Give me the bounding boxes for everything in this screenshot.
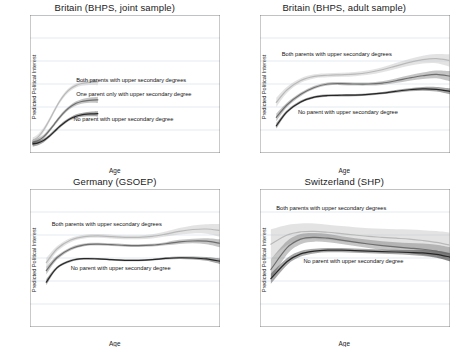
x-axis-label: Age xyxy=(0,167,230,174)
plot-area: 30405060708090101420406080Both parents w… xyxy=(260,189,450,327)
series-annotation: Both parents with upper secondary degree… xyxy=(76,77,186,83)
x-axis-label: Age xyxy=(230,340,459,347)
figure-grid: Britain (BHPS, joint sample) Predicted P… xyxy=(0,0,459,347)
series-annotation: Both parents with upper secondary degree… xyxy=(52,220,162,226)
panel-germany: Germany (GSOEP) Predicted Political Inte… xyxy=(0,174,230,347)
panel-title: Switzerland (SHP) xyxy=(230,176,459,187)
plot-area: 20304050607080101620406080Both parents w… xyxy=(30,189,220,327)
panel-britain-adult: Britain (BHPS, adult sample) Predicted P… xyxy=(230,0,459,174)
plot-area: 20304050607080101620406080Both parents w… xyxy=(260,15,450,153)
panel-switzerland: Switzerland (SHP) Predicted Political In… xyxy=(230,174,459,347)
panel-title: Britain (BHPS, joint sample) xyxy=(0,2,230,13)
panel-title: Britain (BHPS, adult sample) xyxy=(230,2,459,13)
series-annotation: Both parents with upper secondary degree… xyxy=(276,204,386,210)
series-annotation: No parent with upper secondary degree xyxy=(73,116,173,122)
series-annotation: No parent with upper secondary degree xyxy=(303,257,403,263)
series-annotation: No parent with upper secondary degree xyxy=(71,264,171,270)
plot-area: 20304050607080101620406080Both parents w… xyxy=(30,15,220,153)
series-annotation: Both parents with upper secondary degree… xyxy=(281,51,391,57)
series-annotation: No parent with upper secondary degree xyxy=(298,109,398,115)
panel-britain-joint: Britain (BHPS, joint sample) Predicted P… xyxy=(0,0,230,174)
series-annotation: One parent only with upper secondary deg… xyxy=(76,91,191,97)
x-axis-label: Age xyxy=(230,167,459,174)
x-axis-label: Age xyxy=(0,340,230,347)
panel-title: Germany (GSOEP) xyxy=(0,176,230,187)
